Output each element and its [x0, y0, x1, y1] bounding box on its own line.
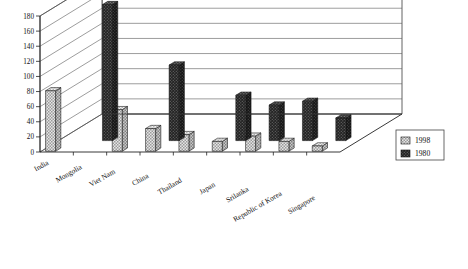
bar [302, 98, 317, 141]
legend-label: 1980 [415, 149, 430, 158]
chart-container: 020406080100120140160180 IndiaMongoliaVi… [0, 0, 468, 269]
bar [212, 138, 227, 151]
dark-solid-swatch [401, 150, 410, 157]
bar [146, 125, 161, 151]
bar [336, 115, 351, 141]
y-tick-label: 180 [23, 13, 34, 21]
y-tick-label: 140 [23, 43, 34, 51]
bar [269, 102, 284, 141]
y-tick-label: 0 [30, 149, 34, 157]
chart-legend[interactable]: 19981980 [396, 130, 444, 160]
y-axis: 020406080100120140160180 [23, 13, 40, 157]
y-tick-label: 100 [23, 73, 34, 81]
bar [236, 92, 251, 141]
bar [169, 62, 184, 141]
bar [312, 143, 327, 152]
category-label: Japan [198, 180, 217, 196]
grouped-bar-chart-3d: 020406080100120140160180 IndiaMongoliaVi… [0, 0, 468, 269]
category-label: Singapore [286, 193, 317, 216]
legend-label: 1998 [415, 136, 430, 145]
y-tick-label: 60 [27, 103, 35, 111]
legend-item-1998[interactable]: 1998 [401, 136, 430, 145]
y-tick-label: 40 [27, 118, 35, 126]
category-label: Thailand [156, 175, 184, 196]
category-label: Viet Nam [87, 167, 116, 189]
light-checkered-swatch [401, 137, 410, 144]
category-label: India [32, 158, 50, 174]
y-tick-label: 160 [23, 28, 34, 36]
legend-item-1980[interactable]: 1980 [401, 149, 430, 158]
bar [279, 138, 294, 151]
category-label: Srilanka [224, 184, 250, 204]
y-tick-label: 20 [27, 133, 35, 141]
category-label: China [130, 171, 150, 188]
x-axis-category-labels: IndiaMongoliaViet NamChinaThailandJapanS… [32, 158, 317, 224]
y-tick-label: 120 [23, 58, 34, 66]
category-label: Mongolia [54, 162, 84, 185]
y-tick-label: 80 [27, 88, 35, 96]
bar [102, 1, 117, 140]
bar [46, 88, 61, 152]
